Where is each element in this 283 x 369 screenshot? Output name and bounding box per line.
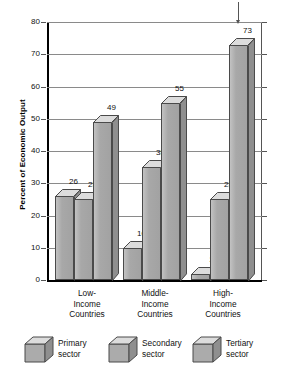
annotation-arrowhead — [236, 20, 240, 24]
y-axis-tick — [41, 87, 46, 88]
y-tick-label: 60 — [20, 83, 40, 91]
bar-side-face — [180, 96, 188, 281]
bar — [55, 189, 74, 280]
y-axis-tick-right — [262, 22, 267, 23]
cube-icon — [192, 336, 222, 364]
y-axis-tick-right — [262, 248, 267, 249]
bar-front-face — [229, 45, 248, 280]
y-axis-tick-right — [262, 151, 267, 152]
bar — [93, 115, 112, 280]
bar-front-face — [93, 122, 112, 280]
y-axis-tick-right — [262, 54, 267, 55]
bar — [210, 192, 229, 280]
chart-legend: PrimarysectorSecondarysectorTertiarysect… — [0, 330, 283, 369]
legend-label-line: Tertiary — [226, 338, 253, 349]
y-tick-label: 40 — [20, 147, 40, 155]
bar — [74, 192, 93, 280]
plot-area: 26254910355522573 — [47, 22, 262, 280]
bar — [229, 38, 248, 280]
bar-front-face — [74, 199, 93, 280]
bar-chart: Percent of Economic Output 0102030405060… — [0, 0, 283, 369]
bar — [123, 241, 142, 280]
legend-label: Tertiarysector — [226, 338, 253, 359]
y-axis-tick — [41, 22, 46, 23]
bar — [161, 96, 180, 280]
y-axis-tick — [41, 280, 46, 281]
y-tick-label: 70 — [20, 50, 40, 58]
y-tick-label: 80 — [20, 18, 40, 26]
y-axis-tick-right — [262, 280, 267, 281]
x-axis-group-label-line: Countries — [183, 309, 263, 320]
y-axis-tick — [41, 183, 46, 184]
y-axis-tick — [41, 151, 46, 152]
y-tick-label: 20 — [20, 212, 40, 220]
y-tick-label: 0 — [20, 276, 40, 284]
legend-label-line: sector — [226, 349, 253, 360]
x-axis-group-label-line: Income — [183, 299, 263, 310]
legend-label: Primarysector — [58, 338, 87, 359]
bar — [191, 267, 210, 280]
legend-label-line: Primary — [58, 338, 87, 349]
bar-value-label: 73 — [243, 27, 252, 35]
bar-front-face — [161, 103, 180, 280]
y-axis-tick-right — [262, 216, 267, 217]
y-tick-label: 50 — [20, 115, 40, 123]
annotation-leader-line — [238, 2, 239, 22]
bar-front-face — [210, 199, 229, 280]
x-axis-group-label-line: High- — [183, 288, 263, 299]
bar-value-label: 49 — [107, 104, 116, 112]
gridline — [47, 22, 262, 23]
legend-label-line: sector — [58, 349, 87, 360]
y-axis-tick-right — [262, 183, 267, 184]
cube-icon — [24, 336, 54, 364]
y-axis-tick-right — [262, 119, 267, 120]
legend-label: Secondarysector — [142, 338, 182, 359]
bar-front-face — [142, 167, 161, 280]
cube-icon — [108, 336, 138, 364]
bar-front-face — [123, 248, 142, 280]
y-axis-tick-right — [262, 87, 267, 88]
y-axis-tick — [41, 119, 46, 120]
y-axis-tick — [41, 54, 46, 55]
legend-label-line: sector — [142, 349, 182, 360]
x-axis-group-label: High-IncomeCountries — [183, 288, 263, 320]
bar — [142, 160, 161, 280]
bar-front-face — [55, 196, 74, 280]
y-tick-label: 30 — [20, 179, 40, 187]
y-axis-tick — [41, 216, 46, 217]
legend-label-line: Secondary — [142, 338, 182, 349]
bar-value-label: 55 — [175, 85, 184, 93]
bar-side-face — [112, 115, 120, 281]
bar-value-label: 26 — [69, 178, 78, 186]
y-tick-label: 10 — [20, 244, 40, 252]
y-axis-tick-labels: 01020304050607080 — [14, 0, 40, 369]
y-axis-tick — [41, 248, 46, 249]
bar-side-face — [248, 38, 256, 281]
